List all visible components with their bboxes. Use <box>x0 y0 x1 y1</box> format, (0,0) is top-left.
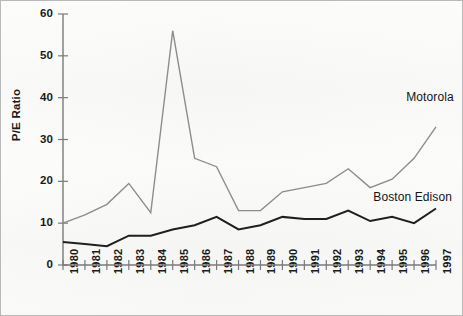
series-label-boston-edison: Boston Edison <box>373 190 452 204</box>
series-label-motorola: Motorola <box>406 90 454 104</box>
series-line-boston-edison <box>63 209 436 247</box>
pe-ratio-line-chart-figure: P/E Ratio 6050403020100 1980198119821983… <box>0 0 463 316</box>
axis-lines <box>58 14 436 270</box>
data-series-lines <box>63 31 436 246</box>
plot-area <box>1 1 463 316</box>
